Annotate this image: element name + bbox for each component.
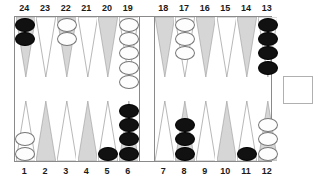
checker-white-point-19[interactable] — [119, 18, 139, 32]
top-point-label-15: 15 — [214, 3, 236, 14]
checker-black-point-6[interactable] — [119, 147, 139, 161]
bottom-point-label-6: 6 — [117, 166, 139, 177]
point-triangle-18[interactable] — [155, 17, 175, 77]
checker-black-point-13[interactable] — [258, 32, 278, 46]
bottom-point-label-9: 9 — [194, 166, 216, 177]
bottom-point-label-5: 5 — [96, 166, 118, 177]
top-point-label-22: 22 — [55, 3, 77, 14]
checker-white-point-22[interactable] — [57, 32, 77, 46]
bottom-point-label-10: 10 — [214, 166, 236, 177]
point-triangle-16[interactable] — [196, 17, 216, 77]
top-point-label-13: 13 — [256, 3, 278, 14]
checker-black-point-6[interactable] — [119, 118, 139, 132]
point-triangle-15[interactable] — [217, 17, 237, 77]
top-point-label-18: 18 — [152, 3, 174, 14]
point-triangle-7[interactable] — [155, 101, 175, 161]
bottom-point-label-11: 11 — [235, 166, 257, 177]
checker-black-point-8[interactable] — [175, 147, 195, 161]
checker-white-point-12[interactable] — [258, 118, 278, 132]
bottom-point-label-7: 7 — [152, 166, 174, 177]
checker-white-point-1[interactable] — [15, 147, 35, 161]
bottom-point-label-8: 8 — [173, 166, 195, 177]
checker-black-point-11[interactable] — [237, 147, 257, 161]
point-triangle-21[interactable] — [78, 17, 98, 77]
backgammon-screenshot: 242322212019181716151413 123456789101112 — [0, 0, 318, 183]
checker-black-point-13[interactable] — [258, 61, 278, 75]
top-point-label-14: 14 — [235, 3, 257, 14]
bottom-point-label-1: 1 — [13, 166, 35, 177]
checker-white-point-19[interactable] — [119, 32, 139, 46]
bear-off-tray[interactable] — [283, 76, 313, 104]
point-triangle-23[interactable] — [36, 17, 56, 77]
point-triangle-14[interactable] — [237, 17, 257, 77]
point-triangle-20[interactable] — [98, 17, 118, 77]
point-triangle-4[interactable] — [78, 101, 98, 161]
point-triangle-2[interactable] — [36, 101, 56, 161]
bottom-point-label-12: 12 — [256, 166, 278, 177]
top-point-label-20: 20 — [96, 3, 118, 14]
checker-black-point-5[interactable] — [98, 147, 118, 161]
bar-left-edge — [139, 17, 140, 161]
top-point-label-21: 21 — [75, 3, 97, 14]
top-point-label-24: 24 — [13, 3, 35, 14]
point-triangle-3[interactable] — [57, 101, 77, 161]
checker-white-point-19[interactable] — [119, 61, 139, 75]
point-triangle-10[interactable] — [217, 101, 237, 161]
bottom-point-label-4: 4 — [75, 166, 97, 177]
top-point-label-23: 23 — [34, 3, 56, 14]
checker-white-point-17[interactable] — [175, 18, 195, 32]
bottom-point-label-3: 3 — [55, 166, 77, 177]
top-point-label-17: 17 — [173, 3, 195, 14]
checker-black-point-13[interactable] — [258, 18, 278, 32]
checker-white-point-12[interactable] — [258, 147, 278, 161]
bottom-point-label-2: 2 — [34, 166, 56, 177]
top-point-label-19: 19 — [117, 3, 139, 14]
checker-white-point-19[interactable] — [119, 75, 139, 89]
point-triangle-9[interactable] — [196, 101, 216, 161]
top-point-label-16: 16 — [194, 3, 216, 14]
checker-black-point-6[interactable] — [119, 104, 139, 118]
backgammon-board[interactable] — [14, 16, 272, 162]
checker-white-point-22[interactable] — [57, 18, 77, 32]
